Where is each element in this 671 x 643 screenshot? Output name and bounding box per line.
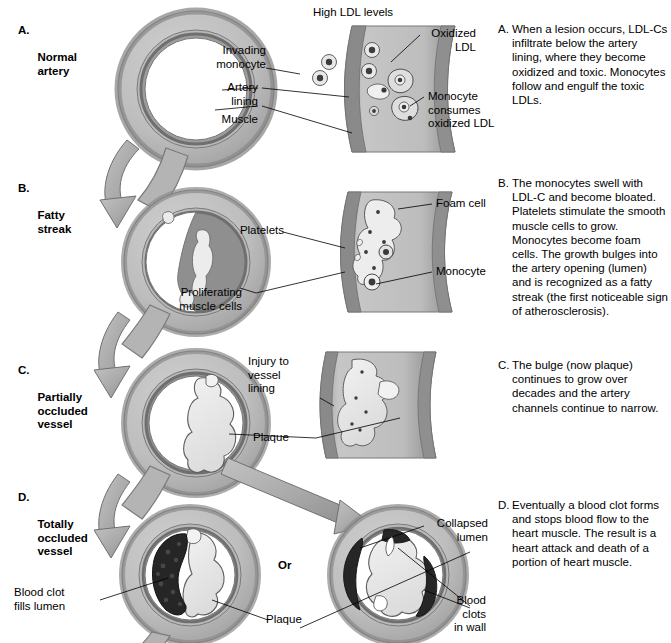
panel-header-high-ldl: High LDL levels <box>313 6 393 20</box>
stage-name-d: Totally occluded vessel <box>37 518 87 559</box>
note-marker-d: D. <box>498 498 510 512</box>
note-marker-b: B. <box>498 176 509 190</box>
stage-letter-b: B. <box>18 182 30 196</box>
flow-arrow-c-d-left <box>94 474 130 558</box>
callout-oxidized-ldl: Oxidized LDL <box>404 27 476 54</box>
stage-label-a: A. Normal artery <box>18 24 77 78</box>
callout-blood-clots-in-wall: Blood clots in wall <box>404 594 486 635</box>
note-text-d: Eventually a blood clot forms and stops … <box>512 498 668 569</box>
stage-name-a: Normal artery <box>37 51 77 78</box>
callout-artery-lining: Artery lining <box>196 81 258 108</box>
note-d: D. Eventually a blood clot forms and sto… <box>498 498 668 569</box>
or-divider: Or <box>278 559 291 571</box>
note-text-a: When a lesion occurs, LDL-Cs infiltrate … <box>512 22 668 107</box>
stage-label-c: C. Partially occluded vessel <box>18 364 88 432</box>
stage-name-b: Fatty streak <box>37 209 71 236</box>
stage-letter-a: A. <box>18 24 30 38</box>
callout-collapsed-lumen: Collapsed lumen <box>412 517 488 544</box>
stage-letter-d: D. <box>18 491 30 505</box>
note-marker-c: C. <box>498 358 510 372</box>
artery-cross-section-fatty-streak <box>122 190 268 358</box>
flow-arrow-b-c <box>94 312 130 398</box>
callout-invading-monocyte: Invading monocyte <box>186 44 266 71</box>
callout-monocyte: Monocyte <box>436 265 486 279</box>
callout-plaque-c: Plaque <box>253 431 289 445</box>
flow-arrow-a-b <box>100 140 139 228</box>
callout-proliferating-muscle-cells: Proliferating muscle cells <box>148 286 242 313</box>
stage-letter-c: C. <box>18 364 30 378</box>
artery-cross-section-totally-occluded-left <box>122 507 258 643</box>
stage-name-c: Partially occluded vessel <box>37 391 87 432</box>
note-c: C. The bulge (now plaque) continues to g… <box>498 358 668 415</box>
callout-platelets: Platelets <box>218 224 284 238</box>
callout-muscle: Muscle <box>196 113 258 127</box>
detail-panel-c <box>320 352 436 458</box>
note-b: B. The monocytes swell with LDL-C and be… <box>498 176 668 318</box>
note-text-c: The bulge (now plaque) continues to grow… <box>512 358 668 415</box>
stage-label-b: B. Fatty streak <box>18 182 71 236</box>
callout-injury-to-vessel-lining: Injury to vessel lining <box>248 355 314 396</box>
callout-foam-cell: Foam cell <box>436 197 486 211</box>
note-text-b: The monocytes swell with LDL-C and becom… <box>512 176 668 318</box>
callout-plaque-d: Plaque <box>266 613 302 627</box>
artery-cross-section-normal <box>118 11 274 212</box>
flow-arrow-c-d-right <box>221 458 372 534</box>
note-marker-a: A. <box>498 22 509 36</box>
stage-label-d: D. Totally occluded vessel <box>18 491 88 559</box>
note-a: A. When a lesion occurs, LDL-Cs infiltra… <box>498 22 668 107</box>
callout-blood-clot-fills-lumen: Blood clot fills lumen <box>14 586 100 613</box>
